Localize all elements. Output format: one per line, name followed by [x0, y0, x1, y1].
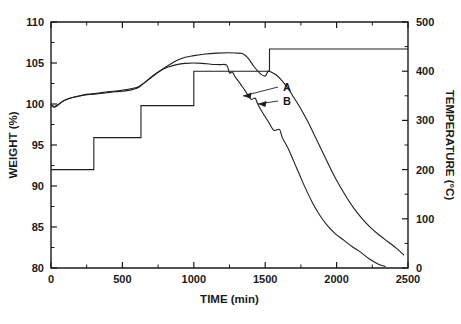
data-series-group	[51, 49, 408, 266]
y2-axis-ticks	[402, 22, 408, 268]
annotation-leaders	[243, 87, 278, 107]
series-label-a: A	[283, 81, 291, 93]
y-tick-label: 80	[32, 262, 44, 274]
y2-tick-label: 300	[416, 114, 434, 126]
x-axis-title: TIME (min)	[200, 293, 259, 305]
y2-tick-label: 500	[416, 16, 434, 28]
series-a-curve	[51, 53, 404, 255]
y-axis-tick-labels: 80859095100105110	[26, 16, 44, 274]
thermogravimetric-chart: 05001000150020002500 80859095100105110 0…	[0, 0, 461, 324]
y-tick-label: 85	[32, 221, 44, 233]
y-tick-label: 105	[26, 57, 44, 69]
chart-canvas: 05001000150020002500 80859095100105110 0…	[0, 0, 461, 324]
x-tick-label: 500	[113, 273, 131, 285]
series-b-curve	[51, 63, 385, 266]
y-tick-label: 100	[26, 98, 44, 110]
y-tick-label: 95	[32, 139, 44, 151]
y2-tick-label: 100	[416, 213, 434, 225]
y-axis-title: WEIGHT (%)	[7, 111, 19, 178]
y-tick-label: 90	[32, 180, 44, 192]
x-axis-tick-labels: 05001000150020002500	[48, 273, 420, 285]
x-tick-label: 0	[48, 273, 54, 285]
x-tick-label: 2500	[396, 273, 420, 285]
y-tick-label: 110	[26, 16, 44, 28]
x-tick-label: 1000	[182, 273, 206, 285]
plot-frame	[51, 22, 408, 268]
x-tick-label: 2000	[324, 273, 348, 285]
y-axis-ticks	[51, 22, 57, 268]
x-axis-ticks	[51, 22, 408, 268]
y2-tick-label: 0	[416, 262, 422, 274]
y2-tick-label: 400	[416, 65, 434, 77]
y2-axis-title: TEMPERATURE (°C)	[444, 90, 456, 201]
y2-axis-tick-labels: 0100200300400500	[416, 16, 434, 274]
series-label-b: B	[283, 95, 291, 107]
series-temperature-program	[51, 49, 408, 170]
y2-tick-label: 200	[416, 164, 434, 176]
x-tick-label: 1500	[253, 273, 277, 285]
